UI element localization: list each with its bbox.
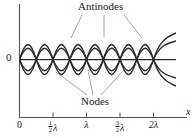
wave-curve-negative-max [20,45,177,87]
x-axis-label: x [186,107,190,117]
nodes-leader-middle [88,70,93,95]
x-tick-label-half-lambda: 1 2 λ [49,120,58,134]
lambda-symbol: λ [53,122,57,133]
fraction-denominator: 2 [116,127,120,133]
y-axis-zero-label: 0 [6,52,12,63]
standing-wave-figure: Antinodes Nodes 0 x 0 1 2 λ λ 3 2 λ 2λ [0,0,196,138]
nodes-leader-left [56,72,87,95]
x-tick-label-lambda: λ [84,120,88,130]
fraction-three-halves: 3 2 [116,120,120,134]
antinodes-leader-left [71,15,82,38]
x-axis-ticks [20,113,154,118]
x-tick-label-two-lambda: 2λ [149,120,158,130]
wave-curves-group [20,33,177,86]
antinodes-label: Antinodes [78,1,123,12]
fraction-numerator: 3 [116,120,120,127]
x-tick-label-0-text: 0 [17,119,22,130]
x-tick-label-0: 0 [17,120,22,130]
antinodes-leader-lines [71,15,142,38]
nodes-leader-right [101,72,122,95]
lambda-symbol: λ [120,122,124,133]
lambda-symbol: 2λ [149,119,158,130]
standing-wave-plot [0,0,196,138]
antinodes-leader-right [124,15,142,38]
nodes-label: Nodes [81,96,109,107]
x-tick-label-three-half-lambda: 3 2 λ [116,120,125,134]
fraction-numerator: 1 [49,120,53,127]
wave-curve-positive-max [20,33,177,75]
lambda-symbol: λ [84,119,88,130]
fraction-one-half: 1 2 [49,120,53,134]
fraction-denominator: 2 [49,127,53,133]
